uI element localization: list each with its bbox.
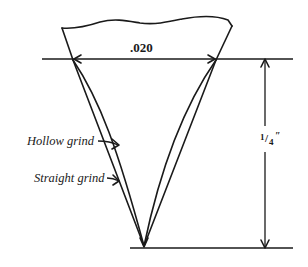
height-dimension-label: 1 / 4 ″ [260, 130, 281, 147]
straight-grind-label: Straight grind [34, 171, 105, 185]
blade-right-upper-edge [216, 26, 232, 60]
svg-text:4: 4 [269, 137, 274, 147]
knife-grind-diagram: .020 1 / 4 ″ Hollow grind Straight grind [0, 0, 308, 267]
hollow-grind-label: Hollow grind [26, 134, 95, 148]
straight-grind-right-edge [144, 60, 216, 246]
blade-left-upper-edge [62, 28, 73, 60]
svg-text:″: ″ [275, 130, 281, 141]
straight-grind-left-edge [73, 60, 144, 246]
width-dimension-label: .020 [130, 40, 153, 55]
blade-break-line [62, 17, 232, 29]
